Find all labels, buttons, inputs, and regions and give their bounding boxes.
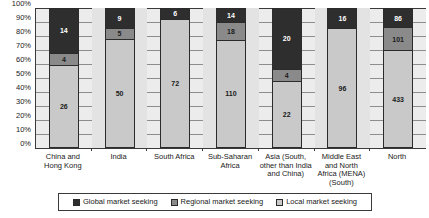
y-axis-tick-label: 90%: [16, 14, 31, 22]
bar-segment-value: 72: [171, 80, 179, 87]
legend-item[interactable]: Local market seeking: [276, 198, 357, 206]
bar-segment-value: 9: [118, 15, 122, 22]
bar-segment-value: 20: [283, 35, 291, 42]
bar-segment-value: 22: [283, 111, 291, 118]
bar-segment[interactable]: 4: [272, 69, 302, 81]
legend-swatch-icon: [171, 199, 178, 206]
x-axis-tick-mark: [146, 148, 147, 151]
bar-stack[interactable]: 20422: [272, 8, 302, 148]
x-axis-tick-mark: [314, 148, 315, 151]
bar-segment-value: 86: [394, 15, 402, 22]
bar-segment[interactable]: 20: [272, 8, 302, 69]
plot-area: 14426955060721418110204221609686101433: [35, 8, 426, 149]
legend-item[interactable]: Regional market seeking: [171, 198, 264, 206]
x-axis-tick-mark: [258, 148, 259, 151]
y-axis: 100%90%80%70%60%50%40%30%20%10%0%: [0, 4, 33, 152]
bar-group[interactable]: 86101433: [370, 8, 426, 148]
bar-stack[interactable]: 16096: [327, 8, 357, 148]
bar-group[interactable]: 6072: [147, 8, 203, 148]
bar-segment[interactable]: 72: [160, 19, 190, 148]
legend-label: Global market seeking: [83, 198, 158, 206]
bar-segment[interactable]: 50: [105, 39, 135, 148]
bar-stack[interactable]: 1418110: [216, 8, 246, 148]
bar-stack[interactable]: 14426: [49, 8, 79, 148]
bar-group[interactable]: 20422: [259, 8, 315, 148]
y-axis-tick-label: 30%: [16, 98, 31, 106]
bar-segment-value: 110: [225, 90, 236, 97]
bar-stack[interactable]: 9550: [105, 8, 135, 148]
bar-segment[interactable]: 433: [383, 50, 413, 148]
x-axis: China andHong KongIndiaSouth AfricaSub-S…: [35, 151, 425, 197]
x-axis-tick-mark: [91, 148, 92, 151]
x-axis-tick-mark: [369, 148, 370, 151]
bar-group[interactable]: 14426: [36, 8, 92, 148]
legend-swatch-icon: [276, 199, 283, 206]
bar-stack[interactable]: 86101433: [383, 8, 413, 148]
bar-segment[interactable]: 9: [105, 8, 135, 28]
legend-label: Local market seeking: [286, 198, 357, 206]
bar-segment[interactable]: 96: [327, 28, 357, 148]
y-axis-tick-label: 100%: [12, 0, 31, 8]
bar-segment[interactable]: 5: [105, 28, 135, 39]
bar-segment[interactable]: 4: [49, 53, 79, 66]
y-axis-tick-label: 50%: [16, 70, 31, 78]
bar-segment-value: 5: [118, 30, 122, 37]
bar-segment-value: 4: [285, 72, 289, 79]
x-axis-tick-label-line: (South): [308, 179, 376, 188]
y-axis-tick-label: 10%: [16, 126, 31, 134]
y-axis-tick-label: 40%: [16, 84, 31, 92]
legend-label: Regional market seeking: [181, 198, 264, 206]
bar-segment-value: 101: [392, 36, 404, 43]
x-axis-tick-mark: [202, 148, 203, 151]
bar-segment[interactable]: 6: [160, 8, 190, 19]
bar-segment-value: 26: [60, 103, 68, 110]
bar-group[interactable]: 1418110: [203, 8, 259, 148]
legend-item[interactable]: Global market seeking: [73, 198, 158, 206]
y-axis-tick-label: 0%: [20, 140, 31, 148]
x-axis-tick-label: North: [363, 153, 429, 162]
bar-segment-value: 433: [392, 96, 404, 103]
legend-swatch-icon: [73, 199, 80, 206]
bar-segment[interactable]: 22: [272, 81, 302, 148]
bar-segment[interactable]: 16: [327, 8, 357, 28]
bar-segment[interactable]: 101: [383, 27, 413, 50]
bar-segment-value: 50: [116, 90, 124, 97]
bar-segment-value: 6: [173, 10, 177, 17]
bar-segment[interactable]: 26: [49, 65, 79, 148]
bars-layer: 14426955060721418110204221609686101433: [36, 8, 426, 148]
y-axis-tick-label: 20%: [16, 112, 31, 120]
bar-segment-value: 14: [227, 12, 235, 19]
y-axis-tick-label: 70%: [16, 42, 31, 50]
y-axis-tick-label: 60%: [16, 56, 31, 64]
bar-segment-value: 18: [227, 28, 235, 35]
bar-segment[interactable]: 86: [383, 8, 413, 27]
y-axis-tick-label: 80%: [16, 28, 31, 36]
bar-segment[interactable]: 18: [216, 22, 246, 40]
chart-legend: Global market seekingRegional market see…: [58, 193, 372, 211]
bar-group[interactable]: 9550: [92, 8, 148, 148]
stacked-bar-chart: 100%90%80%70%60%50%40%30%20%10%0% 144269…: [0, 0, 429, 218]
bar-segment-value: 4: [62, 56, 66, 63]
x-axis-tick-label-line: Hong Kong: [29, 162, 97, 171]
bar-group[interactable]: 16096: [315, 8, 371, 148]
bar-segment-value: 14: [60, 27, 68, 34]
bar-segment-value: 96: [339, 85, 347, 92]
bar-segment-value: 16: [339, 15, 347, 22]
bar-segment[interactable]: 14: [216, 8, 246, 22]
bar-segment[interactable]: 14: [49, 8, 79, 53]
bar-segment[interactable]: 110: [216, 40, 246, 148]
bar-stack[interactable]: 6072: [160, 8, 190, 148]
x-axis-tick-label-line: North: [363, 153, 429, 162]
